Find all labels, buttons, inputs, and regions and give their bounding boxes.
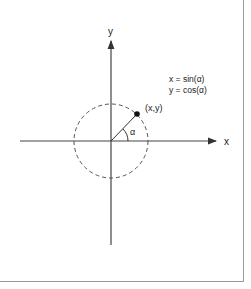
unit-circle-diagram: y x (x,y) α x = sin(α) y = cos(α)	[0, 0, 251, 289]
y-axis-label: y	[108, 26, 113, 37]
angle-label: α	[130, 127, 135, 137]
angle-arc	[123, 129, 128, 141]
point-label: (x,y)	[145, 103, 163, 113]
point-marker	[134, 111, 140, 117]
x-axis-label: x	[224, 136, 229, 147]
equation-x: x = sin(α)	[169, 74, 205, 84]
equation-y: y = cos(α)	[169, 85, 207, 95]
